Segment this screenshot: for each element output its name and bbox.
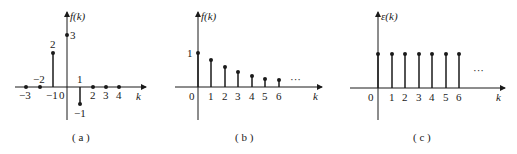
stem-point	[417, 52, 421, 56]
tick-label: −1	[46, 89, 58, 101]
tick-label: 4	[429, 91, 435, 103]
tick-label: 5	[262, 90, 268, 102]
panel-c: ε(k) k 0 1 2 3 4 5 6 ··· ( c )	[350, 10, 505, 144]
y-axis-label: f(k)	[70, 10, 86, 23]
panel-caption: ( c )	[413, 131, 431, 144]
panel-caption: ( a )	[72, 131, 90, 144]
tick-label: 1	[208, 90, 214, 102]
stem-point	[457, 52, 461, 56]
stem-point	[277, 78, 281, 82]
tick-label: 4	[116, 89, 122, 101]
value-label: 1	[77, 73, 83, 85]
stem-point	[376, 52, 380, 56]
stem-point	[403, 52, 407, 56]
stem-point	[430, 52, 434, 56]
stem-point	[390, 52, 394, 56]
stem-point	[250, 74, 254, 78]
tick-label: 3	[235, 90, 241, 102]
tick-label: 2	[222, 90, 228, 102]
x-axis-label: k	[136, 90, 142, 102]
panel-caption: ( b )	[235, 131, 254, 144]
tick-label: 0	[189, 90, 195, 102]
continuation-ellipsis: ···	[290, 73, 301, 85]
tick-label: 3	[416, 91, 422, 103]
tick-label: 6	[456, 91, 462, 103]
y-axis-label: f(k)	[201, 10, 217, 23]
stem-point	[51, 51, 55, 55]
figure: f(k) k −3 −1 0 2 3 4 −2 2 3 1 −1 ( a )	[0, 0, 517, 154]
stem-point	[65, 33, 69, 37]
tick-label: 2	[90, 89, 96, 101]
continuation-ellipsis: ···	[473, 64, 484, 76]
stem-point	[444, 52, 448, 56]
tick-label: 1	[389, 91, 395, 103]
value-label: 3	[70, 29, 76, 41]
x-axis-label: k	[313, 90, 319, 102]
tick-label: 2	[402, 91, 408, 103]
stem-point	[209, 58, 213, 62]
tick-label: 4	[249, 90, 255, 102]
tick-label: 5	[443, 91, 449, 103]
value-label: −2	[33, 73, 45, 85]
stem-point	[78, 102, 82, 106]
value-label: −1	[74, 107, 86, 119]
stem-point	[236, 70, 240, 74]
stem-series	[196, 51, 281, 87]
y-axis-label: ε(k)	[381, 10, 398, 23]
panel-a: f(k) k −3 −1 0 2 3 4 −2 2 3 1 −1 ( a )	[15, 10, 146, 144]
stem-point	[38, 85, 42, 89]
tick-label: 6	[276, 90, 282, 102]
x-axis-label: k	[496, 91, 502, 103]
y-tick-label: 1	[187, 47, 193, 59]
stem-series	[376, 52, 461, 88]
stem-point	[196, 51, 200, 55]
stem-point	[263, 77, 267, 81]
stem-point	[223, 65, 227, 69]
tick-label: 0	[368, 91, 374, 103]
tick-label: 0	[59, 89, 65, 101]
value-label: 2	[50, 38, 56, 50]
tick-label: −3	[19, 89, 31, 101]
tick-label: 3	[103, 89, 109, 101]
panel-b: f(k) k 1 0 1 2 3 4 5 6 ··· ( b )	[175, 10, 322, 144]
